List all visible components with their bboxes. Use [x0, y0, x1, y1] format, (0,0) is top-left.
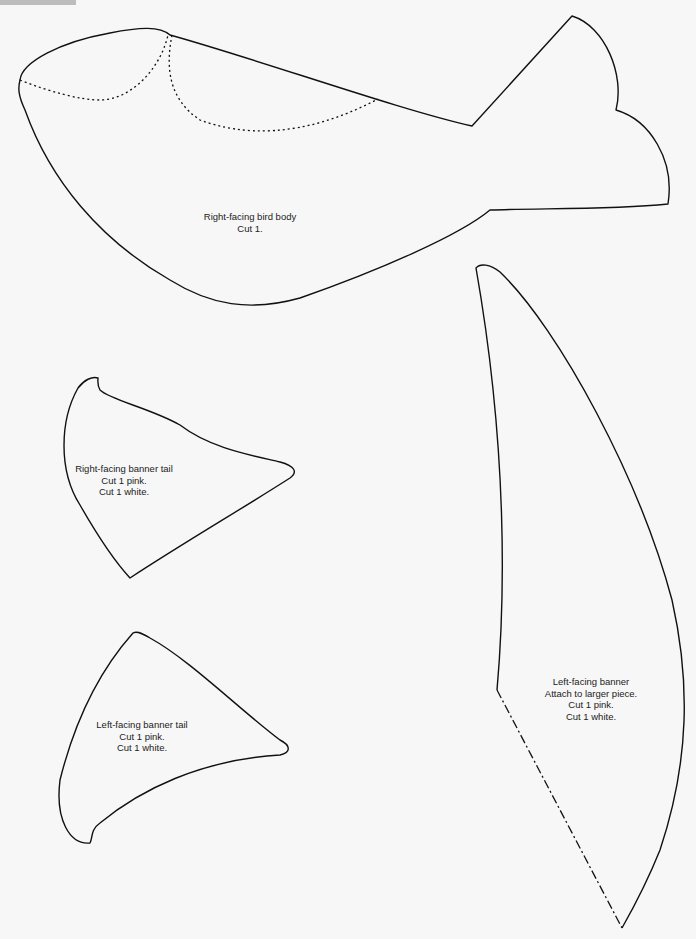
left-banner-tail-instruction-2: Cut 1 white.: [96, 742, 187, 754]
right-banner-tail-label: Right-facing banner tail Cut 1 pink. Cut…: [75, 463, 173, 498]
left-banner-tail-label: Left-facing banner tail Cut 1 pink. Cut …: [96, 719, 187, 754]
left-banner-instruction-2: Cut 1 pink.: [545, 699, 637, 711]
bird-body-instruction-1: Cut 1.: [204, 223, 296, 235]
left-banner-tail-title: Left-facing banner tail: [96, 719, 187, 731]
left-banner-instruction-1: Attach to larger piece.: [545, 688, 637, 700]
left-banner-tail-instruction-1: Cut 1 pink.: [96, 731, 187, 743]
right-banner-tail-title: Right-facing banner tail: [75, 463, 173, 475]
fold-line-right: [169, 35, 378, 131]
bird-body-outline: [19, 16, 669, 305]
right-banner-tail-instruction-2: Cut 1 white.: [75, 486, 173, 498]
left-banner-instruction-3: Cut 1 white.: [545, 711, 637, 723]
left-banner-piece: [476, 265, 684, 928]
pattern-page: Right-facing bird body Cut 1. Right-faci…: [0, 0, 696, 939]
bird-body-title: Right-facing bird body: [204, 211, 296, 223]
fold-line-left: [20, 35, 168, 100]
right-banner-tail-instruction-1: Cut 1 pink.: [75, 475, 173, 487]
bird-body-label: Right-facing bird body Cut 1.: [204, 211, 296, 234]
attach-line: [497, 690, 622, 928]
bird-body-piece: [19, 16, 669, 305]
left-banner-title: Left-facing banner: [545, 676, 637, 688]
left-banner-label: Left-facing banner Attach to larger piec…: [545, 676, 637, 722]
left-banner-outline: [476, 265, 684, 928]
